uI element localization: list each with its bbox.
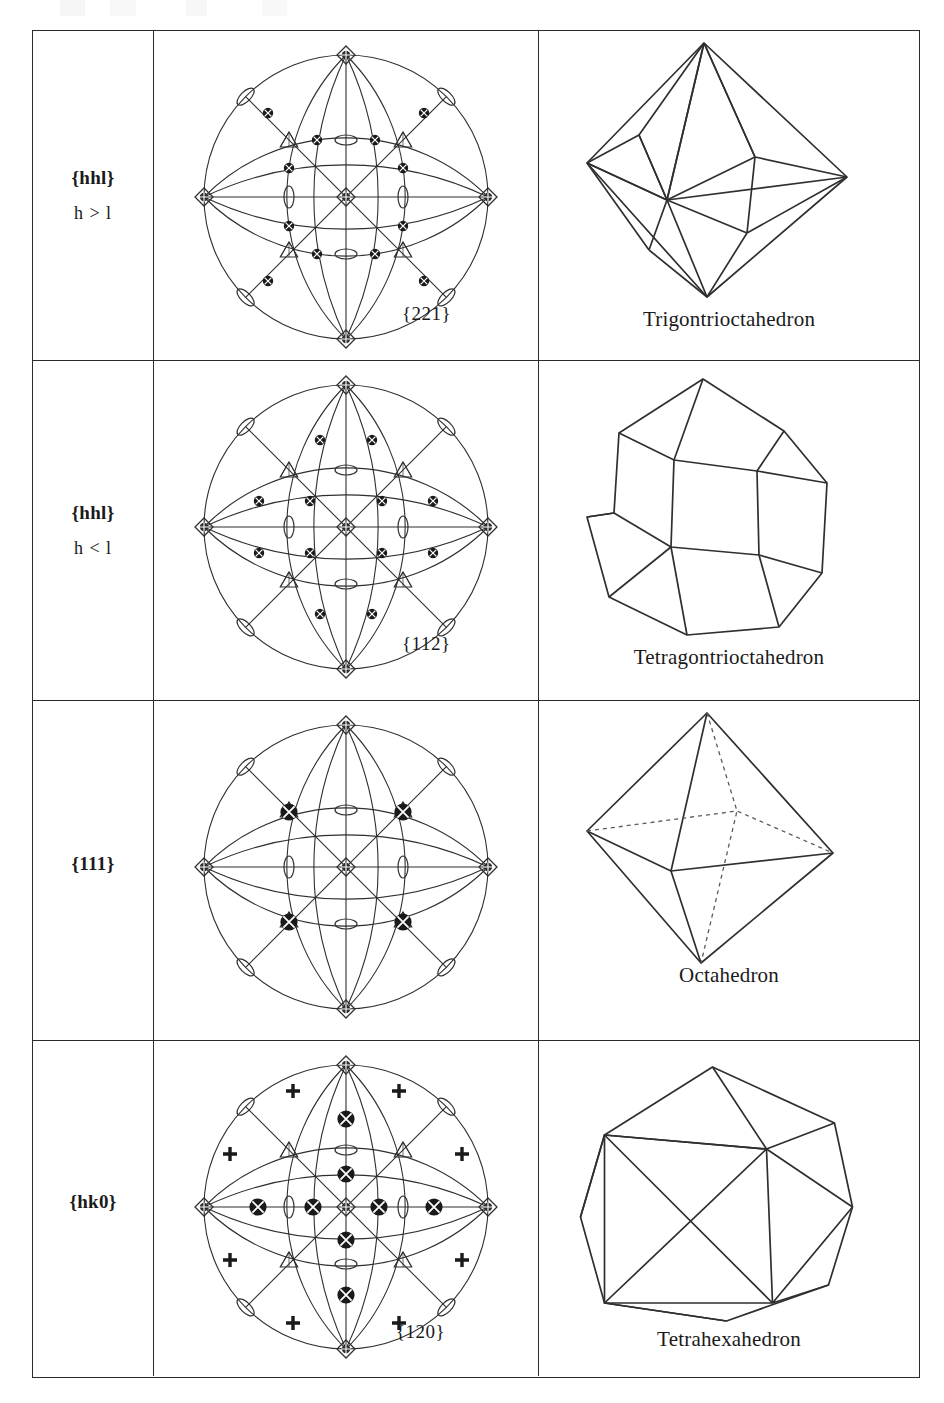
table-row: {111} — [33, 701, 919, 1041]
crystal-drawing-cell: Octahedron — [539, 701, 919, 1040]
crystal-form-name: Octahedron — [539, 963, 919, 988]
stereogram-svg — [186, 1047, 506, 1367]
stereogram-cell: {112} — [154, 361, 539, 700]
tetrahexahedron-drawing — [577, 1045, 882, 1325]
page-artifact-strip — [60, 0, 480, 16]
table-row: {hk0} — [33, 1041, 919, 1376]
trigontrioctahedron-drawing — [579, 35, 879, 305]
stereogram-r3 — [154, 701, 538, 1040]
form-symbol: {hk0} — [69, 1191, 116, 1213]
stereogram-svg — [186, 37, 506, 357]
table-row: {hhl} h < l — [33, 361, 919, 701]
crystal-form-name: Tetragontrioctahedron — [539, 645, 919, 670]
stereogram-cell: {221} — [154, 31, 539, 360]
stereogram-r4: {120} — [154, 1041, 538, 1376]
form-symbol: {111} — [72, 853, 115, 875]
stereogram-label: {221} — [402, 303, 451, 325]
stereogram-label: {120} — [396, 1321, 445, 1343]
crystal-form-name: Trigontrioctahedron — [539, 307, 919, 332]
form-symbol: {hhl} — [72, 167, 115, 189]
form-symbol-cell: {hk0} — [33, 1041, 154, 1376]
stereogram-label: {112} — [402, 633, 451, 655]
stereogram-cell — [154, 701, 539, 1040]
table-row: {hhl} h > l — [33, 31, 919, 361]
tetragontrioctahedron-drawing — [579, 365, 879, 645]
form-symbol: {hhl} — [72, 502, 115, 524]
stereogram-svg — [186, 367, 506, 687]
crystal-drawing-cell: Tetrahexahedron — [539, 1041, 919, 1376]
stereogram-cell: {120} — [154, 1041, 539, 1376]
crystal-form-name: Tetrahexahedron — [539, 1327, 919, 1352]
form-symbol-cell: {hhl} h > l — [33, 31, 154, 360]
form-symbol-cell: {hhl} h < l — [33, 361, 154, 700]
form-symbol-cell: {111} — [33, 701, 154, 1040]
figure-sheet: {hhl} h > l — [0, 0, 944, 1403]
crystal-forms-table: {hhl} h > l — [32, 30, 920, 1378]
stereogram-r2: {112} — [154, 361, 538, 700]
stereogram-r1: {221} — [154, 31, 538, 360]
form-condition: h < l — [74, 538, 112, 559]
form-condition: h > l — [74, 203, 112, 224]
octahedron-drawing — [579, 705, 879, 970]
crystal-drawing-cell: Tetragontrioctahedron — [539, 361, 919, 700]
stereogram-svg — [186, 707, 506, 1027]
crystal-drawing-cell: Trigontrioctahedron — [539, 31, 919, 360]
